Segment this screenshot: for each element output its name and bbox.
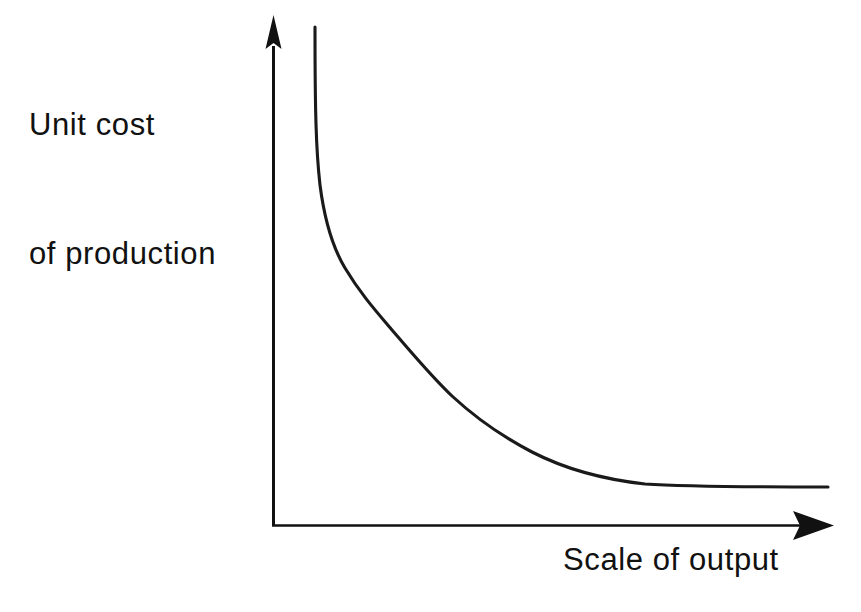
figure-canvas: Unit cost of production Scale of output bbox=[0, 0, 861, 612]
chart-plot-area bbox=[0, 0, 861, 612]
arrow-up-icon bbox=[266, 15, 282, 49]
unit-cost-curve bbox=[315, 27, 828, 487]
